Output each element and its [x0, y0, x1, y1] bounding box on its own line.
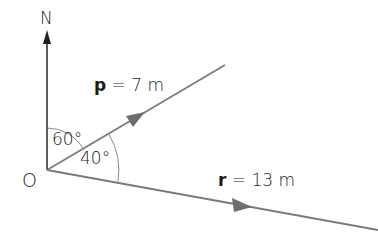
- angle-40-label: 40°: [80, 150, 110, 167]
- vector-r-line: [47, 170, 378, 230]
- north-arrowhead-icon: [43, 30, 51, 44]
- vector-r-arrowhead-icon: [232, 198, 252, 212]
- vector-p-symbol: p: [94, 75, 106, 95]
- vector-p-magnitude: = 7 m: [106, 75, 164, 95]
- vector-p-arrowhead-icon: [126, 112, 145, 127]
- origin-label: O: [22, 171, 37, 190]
- north-label: N: [40, 10, 53, 27]
- vector-diagram: [0, 0, 378, 248]
- vector-r-magnitude: = 13 m: [226, 170, 295, 190]
- vector-p-label: p = 7 m: [94, 77, 164, 94]
- angle-60-label: 60°: [52, 131, 82, 148]
- vector-r-label: r = 13 m: [218, 172, 295, 189]
